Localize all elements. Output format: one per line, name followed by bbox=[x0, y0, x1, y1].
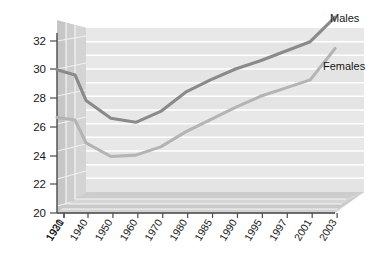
chart-3d-floor bbox=[57, 192, 364, 213]
y-tick-label-30: 30 bbox=[33, 63, 46, 75]
x-tick-label-1970: 1970 bbox=[142, 217, 165, 243]
x-tick-label-1930: 1930 bbox=[43, 217, 66, 243]
y-tick-label-22: 22 bbox=[33, 178, 46, 190]
y-tick-label-32: 32 bbox=[33, 35, 46, 47]
y-tick-label-20: 20 bbox=[33, 207, 46, 219]
x-tick-label-1940: 1940 bbox=[67, 217, 90, 243]
life-expectancy-line-chart: 32 30 28 26 24 22 20 1921193019401950196… bbox=[0, 0, 387, 257]
x-tick-label-1980: 1980 bbox=[167, 217, 190, 243]
x-tick-label-1990: 1990 bbox=[217, 217, 240, 243]
x-tick-label-2001: 2001 bbox=[291, 217, 314, 243]
x-tick-label-1950: 1950 bbox=[92, 217, 115, 243]
x-tick-label-1995: 1995 bbox=[242, 217, 265, 243]
chart-3d-left-walls bbox=[57, 20, 86, 213]
x-tick-label-2003: 2003 bbox=[316, 217, 339, 243]
legend-label-males: Males bbox=[330, 12, 360, 24]
legend-label-females: Females bbox=[323, 60, 366, 72]
plot-area-background bbox=[86, 28, 364, 192]
y-axis: 32 30 28 26 24 22 20 bbox=[33, 33, 57, 219]
y-tick-label-28: 28 bbox=[33, 92, 46, 104]
x-axis: 1921193019401950196019701980198519901995… bbox=[43, 213, 339, 243]
x-tick-label-1960: 1960 bbox=[117, 217, 140, 243]
x-tick-label-1997: 1997 bbox=[266, 217, 289, 243]
chart-container: 32 30 28 26 24 22 20 1921193019401950196… bbox=[0, 0, 387, 257]
y-tick-label-26: 26 bbox=[33, 121, 46, 133]
y-tick-label-24: 24 bbox=[33, 150, 46, 162]
x-tick-label-1985: 1985 bbox=[192, 217, 215, 243]
